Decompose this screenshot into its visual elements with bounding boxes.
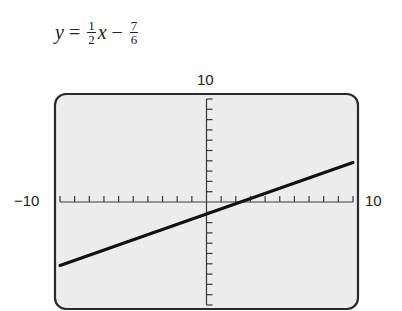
calculator-screen-plot bbox=[0, 0, 402, 311]
